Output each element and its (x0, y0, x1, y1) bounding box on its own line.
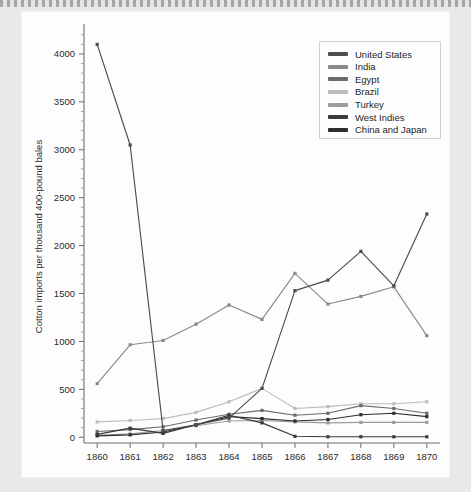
x-axis-tick-label: 1862 (153, 451, 174, 462)
series-marker (359, 295, 362, 298)
legend-item[interactable]: West Indies (328, 111, 433, 124)
series-marker (194, 423, 197, 426)
legend-item-label: Egypt (355, 75, 379, 85)
series-marker (425, 412, 428, 415)
y-axis-tick-label: 500 (59, 384, 75, 395)
series-marker (392, 407, 395, 410)
series-marker (425, 212, 428, 215)
y-axis-tick-label: 3500 (54, 96, 75, 107)
legend-color-swatch (328, 90, 348, 94)
legend-item-label: Brazil (355, 87, 379, 97)
series-marker (293, 272, 296, 275)
chart-card: 0500100015002000250030003500400018601861… (22, 12, 449, 477)
legend-item-label: India (355, 62, 376, 72)
legend-item[interactable]: Egypt (328, 73, 433, 86)
series-marker (359, 421, 362, 424)
series-marker (392, 435, 395, 438)
legend-item[interactable]: Brazil (328, 86, 433, 99)
scan-edge-strip (0, 0, 471, 7)
series-marker (392, 412, 395, 415)
x-axis-tick-label: 1864 (218, 451, 239, 462)
series-marker (260, 318, 263, 321)
legend-item-label: China and Japan (355, 125, 427, 135)
legend-color-swatch (328, 52, 348, 56)
x-axis-tick-label: 1863 (186, 451, 207, 462)
legend-item-label: Turkey (355, 100, 384, 110)
series-marker (326, 421, 329, 424)
series-marker (162, 339, 165, 342)
series-marker (162, 429, 165, 432)
series-marker (129, 427, 132, 430)
legend-color-swatch (328, 77, 348, 81)
series-marker (326, 302, 329, 305)
x-axis-tick-label: 1869 (383, 451, 404, 462)
series-marker (129, 343, 132, 346)
legend-item-label: United States (355, 50, 412, 60)
series-marker (96, 382, 99, 385)
series-marker (293, 435, 296, 438)
legend-item-label: West Indies (355, 113, 404, 123)
series-marker (129, 143, 132, 146)
series-marker (227, 303, 230, 306)
series-marker (359, 413, 362, 416)
series-marker (359, 250, 362, 253)
x-axis-tick-label: 1868 (350, 451, 371, 462)
series-marker (227, 416, 230, 419)
legend-color-swatch (328, 65, 348, 69)
series-marker (194, 323, 197, 326)
y-axis-tick-label: 1500 (54, 288, 75, 299)
series-marker (129, 419, 132, 422)
y-axis-tick-label: 1000 (54, 336, 75, 347)
x-axis-tick-label: 1865 (251, 451, 272, 462)
series-group (96, 272, 429, 385)
series-marker (96, 433, 99, 436)
y-axis-tick-label: 0 (70, 432, 75, 443)
series-marker (425, 415, 428, 418)
series-marker (260, 421, 263, 424)
series-marker (293, 407, 296, 410)
y-axis-tick-label: 4000 (54, 48, 75, 59)
y-axis-title: Cotton imports per thousand 400-pound ba… (33, 140, 44, 334)
page-root: 0500100015002000250030003500400018601861… (0, 0, 471, 492)
legend-color-swatch (328, 128, 348, 132)
y-axis-tick-label: 2500 (54, 192, 75, 203)
legend-item[interactable]: China and Japan (328, 124, 433, 137)
x-axis-tick-label: 1866 (284, 451, 305, 462)
series-marker (260, 387, 263, 390)
legend-item[interactable]: India (328, 61, 433, 74)
series-marker (425, 435, 428, 438)
series-marker (359, 435, 362, 438)
series-marker (227, 419, 230, 422)
series-marker (162, 432, 165, 435)
series-marker (227, 400, 230, 403)
series-group (96, 412, 429, 438)
legend-item[interactable]: Turkey (328, 98, 433, 111)
series-marker (293, 289, 296, 292)
series-marker (293, 414, 296, 417)
legend-color-swatch (328, 103, 348, 107)
series-marker (392, 421, 395, 424)
series-marker (194, 418, 197, 421)
series-marker (425, 400, 428, 403)
series-marker (96, 420, 99, 423)
series-marker (260, 409, 263, 412)
y-axis-tick-label: 2000 (54, 240, 75, 251)
x-axis-tick-label: 1867 (317, 451, 338, 462)
x-axis-tick-label: 1870 (416, 451, 437, 462)
x-axis-tick-label: 1860 (87, 451, 108, 462)
series-marker (392, 402, 395, 405)
series-line (97, 388, 427, 422)
series-marker (293, 419, 296, 422)
series-marker (425, 421, 428, 424)
legend-color-swatch (328, 115, 348, 119)
series-marker (326, 435, 329, 438)
series-marker (194, 411, 197, 414)
series-marker (326, 279, 329, 282)
legend-item[interactable]: United States (328, 48, 433, 61)
chart-legend: United StatesIndiaEgyptBrazilTurkeyWest … (319, 41, 441, 139)
series-marker (326, 418, 329, 421)
series-marker (326, 412, 329, 415)
x-axis-tick-label: 1861 (120, 451, 141, 462)
series-marker (392, 284, 395, 287)
series-marker (326, 405, 329, 408)
